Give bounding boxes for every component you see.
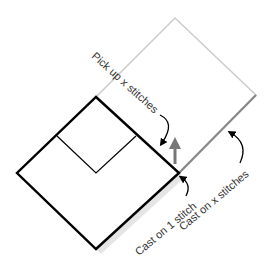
curved-arrow-icon bbox=[231, 133, 243, 163]
diagram-svg: Pick up x stitches Cast on 1 stitch Cast… bbox=[0, 0, 266, 263]
curved-arrow-icon bbox=[182, 178, 188, 196]
label-cast-on-x: Cast on x stitches bbox=[177, 167, 252, 232]
knitting-diagram: Pick up x stitches Cast on 1 stitch Cast… bbox=[0, 0, 266, 263]
